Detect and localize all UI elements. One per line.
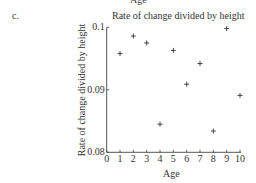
- scatter-plot: 0123456789100.080.090.1: [0, 0, 256, 183]
- x-tick-label: 2: [131, 153, 136, 164]
- data-point-plus-marker: [211, 129, 216, 134]
- data-point-plus-marker: [171, 48, 176, 53]
- y-tick-label: 0.1: [92, 21, 105, 32]
- data-point-plus-marker: [144, 40, 149, 45]
- data-point-plus-marker: [118, 51, 123, 56]
- data-point-plus-marker: [158, 122, 163, 127]
- data-point-plus-marker: [238, 93, 243, 98]
- x-tick-label: 9: [224, 153, 229, 164]
- x-tick-label: 0: [104, 153, 109, 164]
- x-tick-label: 8: [211, 153, 216, 164]
- data-point-plus-marker: [224, 26, 229, 31]
- data-point-plus-marker: [198, 61, 203, 66]
- axes: [107, 27, 241, 152]
- x-tick-label: 6: [184, 153, 189, 164]
- x-tick-label: 3: [144, 153, 149, 164]
- axis-ticks: 0123456789100.080.090.1: [87, 21, 245, 164]
- x-tick-label: 5: [171, 153, 176, 164]
- y-tick-label: 0.09: [87, 84, 105, 95]
- x-tick-label: 10: [235, 153, 245, 164]
- data-points: [118, 26, 243, 134]
- data-point-plus-marker: [131, 34, 136, 39]
- data-point-plus-marker: [184, 82, 189, 87]
- x-tick-label: 1: [118, 153, 123, 164]
- y-tick-label: 0.08: [87, 146, 105, 157]
- x-tick-label: 4: [158, 153, 163, 164]
- x-tick-label: 7: [198, 153, 203, 164]
